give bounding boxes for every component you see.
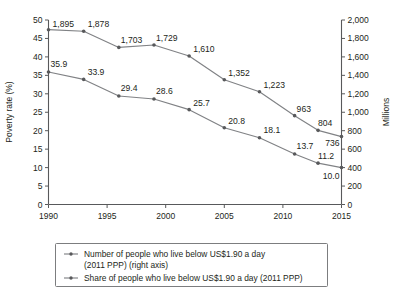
data-label: 736 bbox=[325, 138, 340, 148]
data-point bbox=[223, 126, 227, 130]
y2-tick-label: 800 bbox=[348, 126, 362, 136]
data-label: 25.7 bbox=[193, 98, 210, 108]
data-label: 963 bbox=[297, 104, 312, 114]
y-tick-label: 40 bbox=[33, 52, 43, 62]
legend-item-share: Share of people who live below US$1.90 a… bbox=[64, 273, 303, 283]
data-point bbox=[293, 114, 297, 118]
data-point bbox=[316, 129, 320, 133]
data-label: 1,610 bbox=[193, 44, 215, 54]
data-label: 20.8 bbox=[228, 116, 245, 126]
y-tick-label: 5 bbox=[38, 181, 43, 191]
data-label: 18.1 bbox=[263, 125, 280, 135]
y2-tick-label: 0 bbox=[348, 200, 353, 210]
data-label: 29.4 bbox=[121, 83, 138, 93]
legend-label-share-line1: Share of people who live below US$1.90 a… bbox=[84, 273, 303, 283]
y-tick-label: 30 bbox=[33, 89, 43, 99]
data-label: 1,878 bbox=[88, 19, 110, 29]
y-tick-label: 0 bbox=[38, 200, 43, 210]
y-axis-title: Poverty rate (%) bbox=[4, 81, 14, 143]
legend-label-number-line2: (2011 PPP) (right axis) bbox=[84, 260, 168, 270]
data-label: 33.9 bbox=[88, 67, 105, 77]
data-point bbox=[223, 78, 227, 82]
data-point bbox=[187, 108, 191, 112]
data-label: 11.2 bbox=[318, 151, 334, 161]
x-tick-label: 2015 bbox=[332, 211, 351, 221]
y2-tick-label: 600 bbox=[348, 144, 362, 154]
data-point bbox=[117, 46, 121, 50]
y2-tick-label: 200 bbox=[348, 181, 362, 191]
legend-label-number-line1: Number of people who live below US$1.90 … bbox=[84, 249, 266, 259]
poverty-chart: Poverty rate (%) Millions 05101520253035… bbox=[0, 0, 398, 298]
y2-tick-label: 1,200 bbox=[348, 89, 370, 99]
legend-marker-share bbox=[69, 276, 72, 279]
data-label: 35.9 bbox=[51, 59, 68, 69]
data-label: 1,703 bbox=[121, 35, 143, 45]
data-label: 1,352 bbox=[228, 68, 250, 78]
y2-tick-label: 1,400 bbox=[348, 70, 370, 80]
x-tick-label: 1995 bbox=[98, 211, 117, 221]
y-tick-label: 10 bbox=[33, 163, 43, 173]
legend: Number of people who live below US$1.90 … bbox=[56, 244, 328, 287]
data-label: 1,223 bbox=[263, 80, 285, 90]
data-label: 10.0 bbox=[323, 171, 340, 181]
y-tick-label: 45 bbox=[33, 33, 43, 43]
x-tick-label: 2005 bbox=[215, 211, 234, 221]
data-point bbox=[258, 136, 262, 140]
data-point bbox=[152, 97, 156, 101]
y2-tick-label: 400 bbox=[348, 163, 362, 173]
data-point bbox=[152, 43, 156, 47]
data-point bbox=[340, 135, 344, 139]
data-label: 804 bbox=[318, 118, 333, 128]
legend-marker-number bbox=[69, 252, 72, 255]
x-tick-label: 1990 bbox=[39, 211, 58, 221]
data-point bbox=[47, 70, 51, 74]
y2-axis-title: Millions bbox=[381, 98, 391, 126]
data-point bbox=[340, 166, 344, 170]
y-tick-label: 25 bbox=[33, 107, 43, 117]
data-point bbox=[316, 161, 320, 165]
y2-tick-label: 1,800 bbox=[348, 33, 370, 43]
data-point bbox=[293, 152, 297, 156]
x-tick-label: 2010 bbox=[273, 211, 292, 221]
data-label: 28.6 bbox=[156, 86, 173, 96]
data-label: 13.7 bbox=[297, 141, 314, 151]
x-tick-label: 2000 bbox=[156, 211, 175, 221]
y2-tick-label: 1,600 bbox=[348, 52, 370, 62]
data-point bbox=[258, 90, 262, 94]
data-label: 1,895 bbox=[53, 19, 75, 29]
data-point bbox=[117, 94, 121, 98]
y-tick-label: 50 bbox=[33, 15, 43, 25]
y2-tick-label: 1,000 bbox=[348, 107, 370, 117]
y2-tick-label: 2,000 bbox=[348, 15, 370, 25]
data-point bbox=[82, 29, 86, 33]
y-tick-label: 35 bbox=[33, 70, 43, 80]
y-tick-label: 20 bbox=[33, 126, 43, 136]
y-tick-label: 15 bbox=[33, 144, 43, 154]
data-point bbox=[187, 54, 191, 58]
data-point bbox=[47, 28, 51, 32]
data-label: 1,729 bbox=[156, 33, 178, 43]
data-point bbox=[82, 78, 86, 82]
